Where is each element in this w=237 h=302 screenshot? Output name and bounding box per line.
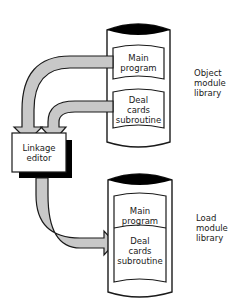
text-line: editor	[12, 153, 66, 163]
object-deal-cards-label: Deal cards subroutine	[113, 95, 164, 125]
load-module-library-label: Load module library	[196, 213, 228, 243]
text-line: library	[196, 233, 228, 243]
text-line: module	[196, 223, 228, 233]
text-line: cards	[113, 105, 164, 115]
text-line: Main	[113, 53, 164, 63]
text-line: program	[113, 63, 164, 73]
text-line: module	[194, 78, 226, 88]
object-module-library-label: Object module library	[194, 68, 226, 98]
text-line: Deal	[114, 236, 166, 246]
object-module-library-cylinder	[107, 24, 170, 147]
text-line: Object	[194, 68, 226, 78]
text-line: subroutine	[113, 115, 164, 125]
load-deal-cards-label: Deal cards subroutine	[114, 236, 166, 266]
text-line: library	[194, 88, 226, 98]
object-main-program-label: Main program	[113, 53, 164, 73]
text-line: Deal	[113, 95, 164, 105]
text-line: program	[114, 216, 166, 226]
text-line: cards	[114, 246, 166, 256]
load-main-program-label: Main program	[114, 206, 166, 226]
text-line: Main	[114, 206, 166, 216]
text-line: Linkage	[12, 143, 66, 153]
linkage-editor-label: Linkage editor	[12, 143, 66, 163]
text-line: subroutine	[114, 256, 166, 266]
text-line: Load	[196, 213, 228, 223]
arrow-linkage-to-load	[36, 178, 115, 255]
